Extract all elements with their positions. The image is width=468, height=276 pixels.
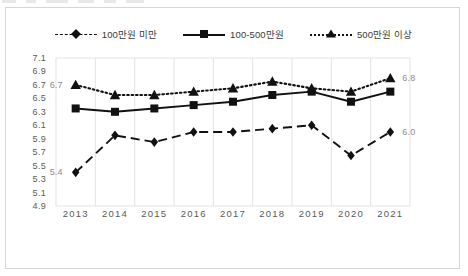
x-axis-tick-label: 2021: [377, 208, 403, 219]
data-point-marker: [111, 108, 119, 116]
legend-item-1[interactable]: 100-500만원: [183, 27, 284, 41]
data-point-marker: [387, 127, 394, 137]
legend-swatch-solid-square-icon: [183, 28, 225, 40]
data-point-marker: [150, 104, 158, 112]
data-point-marker: [151, 137, 158, 147]
endpoint-label-start: 5.4: [50, 167, 63, 177]
data-point-marker: [308, 120, 315, 130]
legend-item-0[interactable]: 100만원 미만: [55, 27, 157, 41]
chart-svg: [6, 48, 461, 223]
endpoint-label-end: 6.8: [402, 73, 415, 83]
data-point-marker: [347, 98, 355, 106]
x-axis-tick-label: 2013: [63, 208, 89, 219]
data-point-marker: [229, 127, 236, 137]
endpoint-label-end: 6.0: [402, 127, 415, 137]
cropped-ui-strip: [0, 0, 468, 6]
endpoint-label-start: 6.7: [50, 80, 63, 90]
data-point-marker: [190, 127, 197, 137]
data-point-marker: [72, 104, 80, 112]
data-point-marker: [269, 124, 276, 134]
chart-container: 100만원 미만 100-500만원 500만원 이상 7.16.96.76.5…: [5, 7, 460, 269]
x-axis-tick-label: 2018: [259, 208, 285, 219]
data-point-marker: [347, 151, 354, 161]
x-axis-tick-label: 2019: [299, 208, 325, 219]
x-axis: 201320142015201620172018201920202021: [6, 208, 461, 228]
legend-swatch-dotted-triangle-icon: [310, 28, 352, 40]
legend-label-0: 100만원 미만: [102, 27, 157, 41]
data-point-marker: [229, 98, 237, 106]
x-axis-tick-label: 2017: [220, 208, 246, 219]
legend-swatch-dashed-diamond-icon: [55, 28, 97, 40]
data-point-marker: [70, 80, 80, 89]
data-point-marker: [268, 91, 276, 99]
data-point-marker: [267, 76, 277, 85]
x-axis-tick-label: 2015: [141, 208, 167, 219]
x-axis-tick-label: 2014: [102, 208, 128, 219]
data-point-marker: [385, 73, 395, 82]
chart-legend: 100만원 미만 100-500만원 500만원 이상: [6, 24, 461, 44]
legend-label-1: 100-500만원: [230, 27, 284, 41]
data-point-marker: [386, 88, 394, 96]
legend-label-2: 500만원 이상: [357, 27, 412, 41]
data-point-marker: [190, 101, 198, 109]
x-axis-tick-label: 2020: [338, 208, 364, 219]
legend-item-2[interactable]: 500만원 이상: [310, 27, 412, 41]
x-axis-tick-label: 2016: [181, 208, 207, 219]
plot-area: 7.16.96.76.56.36.15.95.75.55.35.14.9 201…: [6, 48, 461, 268]
